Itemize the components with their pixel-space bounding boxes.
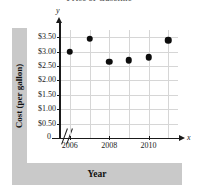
gridline-vertical [149, 30, 150, 138]
y-axis-tick-mark [57, 95, 61, 96]
x-axis-tick-label: 2008 [101, 141, 117, 150]
y-axis-tick-mark [57, 52, 61, 53]
x-axis-tick-mark [109, 136, 110, 140]
y-axis-tick-mark [57, 66, 61, 67]
x-axis-arrow-icon [179, 135, 185, 141]
data-point [126, 57, 133, 64]
data-point [165, 37, 172, 44]
y-axis-tick-label: $2.50 [18, 61, 56, 70]
gridline-vertical [168, 30, 169, 138]
data-point [86, 35, 93, 42]
gridline-vertical [70, 30, 71, 138]
gridline-vertical [109, 30, 110, 138]
gridline-vertical [129, 30, 130, 138]
chart-title: Price of Gasoline [0, 0, 198, 1]
y-axis-tick-label: $0.50 [18, 119, 56, 128]
gridline-horizontal [60, 109, 178, 110]
x-axis-tick-mark [149, 136, 150, 140]
gridline-horizontal [60, 95, 178, 96]
y-axis-tick-label: $2.00 [18, 75, 56, 84]
y-axis-tick-mark [57, 109, 61, 110]
y-axis-tick-mark [57, 124, 61, 125]
gridline-horizontal [60, 124, 178, 125]
x-axis-tick-label: 2010 [141, 141, 157, 150]
data-point [145, 54, 152, 61]
y-axis-origin-label: 0 [47, 132, 51, 141]
chart-figure: Price of Gasoline Cost (per gallon) Year… [0, 0, 198, 189]
gridline-horizontal [60, 80, 178, 81]
gridline-vertical [90, 30, 91, 138]
x-axis-tick-mark [70, 136, 71, 140]
y-axis-tick-label: $3.50 [18, 32, 56, 41]
y-axis-tick-label: $3.00 [18, 47, 56, 56]
y-axis-variable-label: y [56, 6, 60, 15]
y-axis-arrow-icon [56, 17, 62, 23]
x-axis-title: Year [12, 163, 182, 185]
x-axis-tick-label: 2006 [62, 141, 78, 150]
x-axis-variable-label: x [187, 133, 191, 142]
data-point [106, 58, 113, 65]
gridline-horizontal [60, 37, 178, 38]
gridline-horizontal [60, 66, 178, 67]
y-axis-tick-label: $1.50 [18, 90, 56, 99]
y-axis-tick-label: $1.00 [18, 104, 56, 113]
gridline-horizontal [60, 52, 178, 53]
plot-area [60, 30, 178, 138]
data-point [67, 48, 74, 55]
y-axis-tick-mark [57, 37, 61, 38]
y-axis-tick-mark [57, 80, 61, 81]
